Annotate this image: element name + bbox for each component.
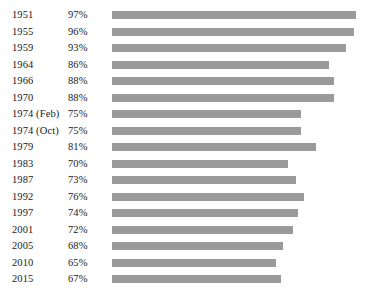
chart-row: 195197% bbox=[0, 7, 376, 24]
chart-row: 199276% bbox=[0, 189, 376, 206]
category-label: 1974 (Feb) bbox=[12, 106, 72, 123]
chart-row: 198370% bbox=[0, 156, 376, 173]
value-label: 96% bbox=[68, 24, 98, 41]
bar bbox=[112, 259, 276, 267]
bar-track bbox=[112, 139, 376, 156]
value-label: 74% bbox=[68, 205, 98, 222]
chart-row: 197981% bbox=[0, 139, 376, 156]
bar bbox=[112, 160, 288, 168]
bar bbox=[112, 127, 301, 135]
value-label: 88% bbox=[68, 73, 98, 90]
bar-track bbox=[112, 271, 376, 288]
category-label: 1964 bbox=[12, 57, 72, 74]
value-label: 75% bbox=[68, 123, 98, 140]
value-label: 72% bbox=[68, 222, 98, 239]
bar-track bbox=[112, 90, 376, 107]
category-label: 1955 bbox=[12, 24, 72, 41]
value-label: 67% bbox=[68, 271, 98, 288]
chart-row: 195596% bbox=[0, 24, 376, 41]
bar bbox=[112, 176, 296, 184]
chart-row: 1974 (Oct)75% bbox=[0, 123, 376, 140]
bar-chart: 195197%195596%195993%196486%196688%19708… bbox=[0, 0, 376, 292]
chart-row: 201567% bbox=[0, 271, 376, 288]
bar-track bbox=[112, 123, 376, 140]
chart-row: 198773% bbox=[0, 172, 376, 189]
category-label: 2010 bbox=[12, 255, 72, 272]
chart-row: 196688% bbox=[0, 73, 376, 90]
category-label: 2015 bbox=[12, 271, 72, 288]
bar-track bbox=[112, 106, 376, 123]
value-label: 70% bbox=[68, 156, 98, 173]
bar-track bbox=[112, 205, 376, 222]
category-label: 1979 bbox=[12, 139, 72, 156]
value-label: 93% bbox=[68, 40, 98, 57]
bar-track bbox=[112, 40, 376, 57]
value-label: 73% bbox=[68, 172, 98, 189]
category-label: 2001 bbox=[12, 222, 72, 239]
chart-row: 199774% bbox=[0, 205, 376, 222]
chart-row: 197088% bbox=[0, 90, 376, 107]
bar-track bbox=[112, 189, 376, 206]
bar bbox=[112, 28, 354, 36]
bar-track bbox=[112, 57, 376, 74]
bar bbox=[112, 193, 304, 201]
category-label: 1997 bbox=[12, 205, 72, 222]
category-label: 1959 bbox=[12, 40, 72, 57]
value-label: 68% bbox=[68, 238, 98, 255]
value-label: 81% bbox=[68, 139, 98, 156]
value-label: 65% bbox=[68, 255, 98, 272]
category-label: 1966 bbox=[12, 73, 72, 90]
bar-track bbox=[112, 156, 376, 173]
bar bbox=[112, 226, 293, 234]
bar-track bbox=[112, 172, 376, 189]
category-label: 1987 bbox=[12, 172, 72, 189]
chart-row: 195993% bbox=[0, 40, 376, 57]
chart-row: 200172% bbox=[0, 222, 376, 239]
category-label: 1951 bbox=[12, 7, 72, 24]
bar-track bbox=[112, 7, 376, 24]
bar bbox=[112, 61, 329, 69]
value-label: 76% bbox=[68, 189, 98, 206]
chart-row: 200568% bbox=[0, 238, 376, 255]
category-label: 1970 bbox=[12, 90, 72, 107]
category-label: 1992 bbox=[12, 189, 72, 206]
bar-track bbox=[112, 255, 376, 272]
value-label: 86% bbox=[68, 57, 98, 74]
chart-row: 196486% bbox=[0, 57, 376, 74]
bar bbox=[112, 44, 346, 52]
bar bbox=[112, 94, 334, 102]
category-label: 1974 (Oct) bbox=[12, 123, 72, 140]
category-label: 1983 bbox=[12, 156, 72, 173]
bar bbox=[112, 77, 334, 85]
bar-track bbox=[112, 238, 376, 255]
value-label: 97% bbox=[68, 7, 98, 24]
bar bbox=[112, 242, 283, 250]
value-label: 75% bbox=[68, 106, 98, 123]
bar bbox=[112, 110, 301, 118]
bar-track bbox=[112, 73, 376, 90]
bar bbox=[112, 143, 316, 151]
chart-row: 1974 (Feb)75% bbox=[0, 106, 376, 123]
bar bbox=[112, 11, 356, 19]
chart-rows: 195197%195596%195993%196486%196688%19708… bbox=[0, 7, 376, 288]
bar-track bbox=[112, 222, 376, 239]
value-label: 88% bbox=[68, 90, 98, 107]
bar bbox=[112, 209, 298, 217]
bar bbox=[112, 275, 281, 283]
bar-track bbox=[112, 24, 376, 41]
category-label: 2005 bbox=[12, 238, 72, 255]
chart-row: 201065% bbox=[0, 255, 376, 272]
